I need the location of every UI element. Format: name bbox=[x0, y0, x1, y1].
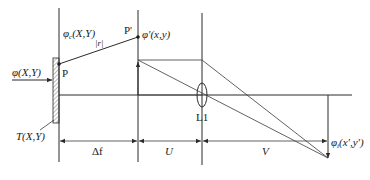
distance-r-label: |r| bbox=[95, 38, 103, 48]
object-wave-label: φc(X,Y) bbox=[63, 27, 95, 41]
dim-v-label: V bbox=[262, 145, 270, 157]
transmittance-leader bbox=[40, 120, 54, 130]
dim-delta-f-label: Δf bbox=[92, 145, 103, 157]
optics-diagram: φ(X,Y) P P' |r| φc(X,Y) φ'(x,y) L1 φi(x'… bbox=[0, 0, 370, 180]
ray-chief bbox=[138, 60, 328, 158]
incident-wave-label: φ(X,Y) bbox=[12, 66, 41, 79]
point-p-prime bbox=[136, 35, 140, 39]
image-wave-label: φi(x',y') bbox=[331, 136, 364, 150]
point-p-label: P bbox=[62, 67, 68, 79]
transmittance-label: T(X,Y) bbox=[16, 130, 45, 143]
lens-label: L1 bbox=[196, 111, 208, 123]
ray-refracted bbox=[202, 60, 328, 158]
dim-u-label: U bbox=[165, 145, 174, 157]
point-p-prime-label: P' bbox=[124, 24, 132, 36]
hologram-hatch bbox=[53, 58, 59, 123]
propagated-wave-label: φ'(x,y) bbox=[142, 28, 171, 41]
